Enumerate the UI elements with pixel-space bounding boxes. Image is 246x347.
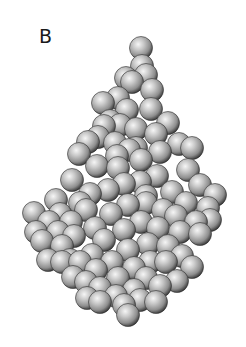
sphere: [86, 155, 109, 178]
sphere: [89, 291, 112, 314]
sphere: [145, 291, 168, 314]
sphere: [117, 304, 140, 327]
sphere-cluster: [0, 0, 246, 347]
figure-panel: B: [0, 0, 246, 347]
sphere: [189, 223, 212, 246]
sphere: [113, 219, 136, 242]
sphere: [181, 137, 204, 160]
panel-label: B: [39, 25, 52, 47]
